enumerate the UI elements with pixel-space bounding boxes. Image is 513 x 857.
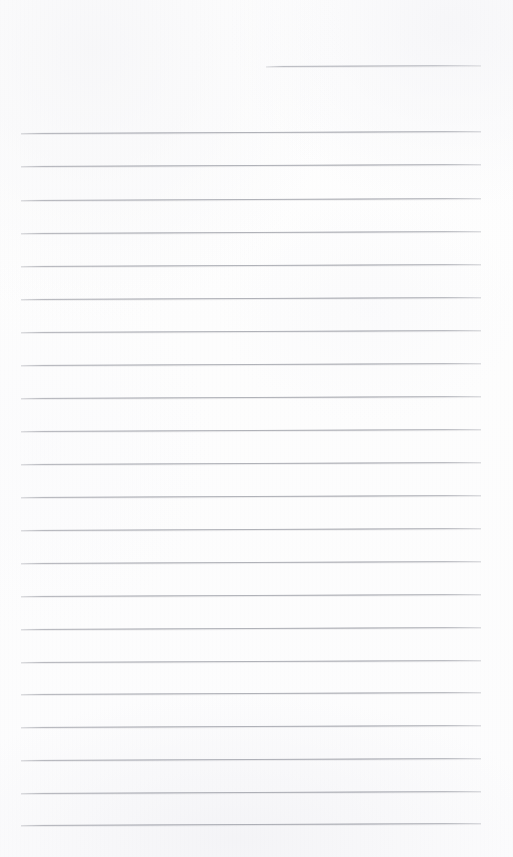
ruled-line (21, 363, 481, 366)
ruled-line (21, 231, 481, 234)
ruled-line (21, 495, 481, 498)
ruled-line (21, 561, 481, 564)
ruled-line (21, 330, 481, 333)
ruled-line (21, 627, 481, 630)
ruled-line-layer (0, 0, 513, 857)
ruled-line (21, 725, 481, 728)
ruled-line (21, 594, 481, 597)
ruled-line (21, 528, 481, 531)
ruled-line (21, 164, 481, 167)
ruled-line (21, 692, 481, 695)
ruled-line (21, 131, 481, 134)
ruled-line (21, 791, 481, 794)
ruled-line (21, 758, 481, 761)
ruled-line (21, 198, 481, 201)
ruled-line (21, 264, 481, 267)
ruled-line (21, 429, 481, 432)
ruled-line (21, 462, 481, 465)
scanned-notebook-page (0, 0, 513, 857)
ruled-line (21, 660, 481, 663)
ruled-line (21, 396, 481, 399)
header-rule-line (266, 65, 481, 67)
ruled-line (21, 823, 481, 826)
ruled-line (21, 297, 481, 300)
